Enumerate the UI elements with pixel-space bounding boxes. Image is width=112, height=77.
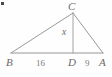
segment-ca	[73, 13, 103, 53]
vertex-label-a: A	[99, 57, 106, 68]
measurement-label-da: 9	[85, 59, 90, 68]
vertex-label-b: B	[6, 57, 13, 68]
vertex-label-d: D	[68, 57, 76, 68]
geometry-figure: C B D A 16 9 x	[0, 0, 112, 77]
measurement-label-altitude-x: x	[62, 28, 66, 38]
vertex-label-c: C	[68, 1, 75, 12]
triangle-drawing	[0, 0, 112, 77]
measurement-label-bd: 16	[36, 59, 45, 68]
